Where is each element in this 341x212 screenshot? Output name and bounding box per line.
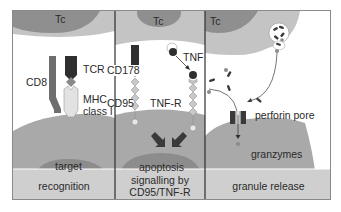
tnf-bound — [189, 71, 197, 79]
tnf-label: TNF — [183, 52, 203, 63]
tc-label: Tc — [55, 14, 66, 25]
caption-signalling-line1: signalling by — [115, 174, 205, 186]
cytotoxic-granule — [269, 23, 289, 43]
free-granzymes — [209, 71, 262, 103]
mhc-class-i-molecule — [64, 86, 78, 117]
caption-signalling-line2: CD95/TNF-R — [115, 186, 205, 198]
cd95-label: CD95 — [107, 98, 134, 109]
granule-path-arrow — [249, 53, 277, 101]
tc-label: Tc — [153, 16, 164, 27]
antigen-peptide — [66, 77, 76, 87]
granzymes-label: granzymes — [251, 149, 302, 160]
cd8-molecule — [49, 56, 61, 113]
tnf-r-label: TNF-R — [150, 98, 182, 109]
tcr-label: TCR — [83, 64, 105, 75]
cd178-label: CD178 — [107, 65, 140, 76]
caption-granule-release: granule release — [205, 180, 331, 192]
figure-frame: Tc CD8 TCR MHC class I target recognitio… — [12, 10, 331, 200]
target-cell-membrane — [13, 114, 115, 149]
internalized-granzyme — [236, 142, 240, 146]
apoptosis-label: apoptosis — [139, 162, 184, 173]
tc-label: Tc — [210, 16, 221, 27]
caption-recognition: recognition — [13, 180, 115, 192]
tnf-molecule — [169, 48, 177, 56]
target-label: target — [55, 161, 82, 172]
cd8-label: CD8 — [26, 77, 47, 88]
granzyme-entry-arrow — [209, 89, 237, 111]
perforin-pore-label: perforin pore — [255, 110, 315, 121]
mhc-label: MHC — [83, 94, 107, 105]
panel-signalling — [115, 11, 205, 179]
